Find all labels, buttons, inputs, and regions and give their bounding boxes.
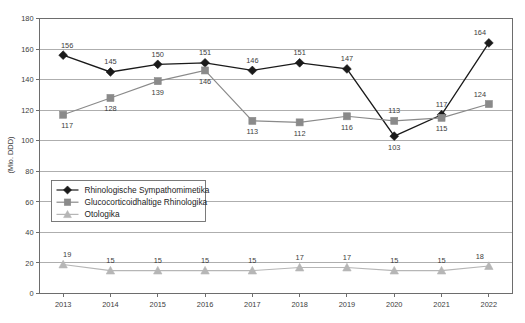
data-series [59, 39, 494, 274]
y-tick-label: 120 [21, 106, 33, 115]
data-point-value: 17 [343, 253, 351, 262]
y-tick-label: 0 [29, 289, 33, 298]
square-marker [438, 114, 445, 121]
data-point-value: 146 [199, 77, 211, 86]
data-point-value: 164 [474, 28, 486, 37]
data-point-value: 15 [437, 256, 445, 265]
data-point-value: 113 [388, 106, 400, 115]
x-tick-label: 2021 [433, 300, 449, 309]
square-marker [107, 94, 114, 101]
y-tick-label: 20 [25, 259, 33, 268]
data-point-value: 103 [388, 143, 400, 152]
data-point-value: 115 [436, 124, 448, 133]
series-line [63, 70, 489, 122]
y-axis-title-text: (Mio. DDD) [6, 137, 15, 174]
data-point-value: 150 [152, 50, 164, 59]
x-tick-label: 2015 [150, 300, 166, 309]
x-axis-ticks: 2013201420152016201720182019202020212022 [55, 294, 497, 309]
data-point-labels: 1561451501511461511471031171641171281391… [61, 28, 486, 265]
data-point-value: 156 [61, 41, 73, 50]
data-point-value: 19 [63, 250, 71, 259]
series-1 [59, 39, 494, 141]
y-tick-label: 180 [21, 14, 33, 23]
y-tick-label: 80 [25, 167, 33, 176]
triangle-marker [59, 260, 67, 268]
y-tick-label: 160 [21, 45, 33, 54]
diamond-marker [106, 68, 115, 77]
data-point-value: 15 [201, 256, 209, 265]
data-point-value: 112 [294, 129, 306, 138]
data-point-value: 117 [436, 100, 448, 109]
x-tick-label: 2019 [339, 300, 355, 309]
data-point-value: 117 [61, 121, 73, 130]
legend-label: Otologika [85, 209, 120, 219]
x-tick-label: 2016 [197, 300, 213, 309]
data-point-value: 15 [106, 256, 114, 265]
square-marker [202, 67, 209, 74]
series-2 [60, 67, 493, 126]
x-tick-label: 2017 [244, 300, 260, 309]
data-point-value: 15 [248, 256, 256, 265]
data-point-value: 113 [246, 127, 258, 136]
x-tick-label: 2013 [55, 300, 71, 309]
chart-canvas: 020406080100120140160180 201320142015201… [0, 0, 525, 323]
legend-label: Glucocorticoidhaltige Rhinologika [85, 197, 208, 207]
series-line [63, 264, 489, 270]
y-tick-label: 140 [21, 75, 33, 84]
data-point-value: 151 [293, 48, 305, 57]
diamond-marker [295, 58, 304, 67]
y-tick-label: 60 [25, 198, 33, 207]
diamond-marker [153, 60, 162, 69]
data-point-value: 147 [341, 54, 353, 63]
x-tick-label: 2018 [291, 300, 307, 309]
square-marker [343, 113, 350, 120]
line-chart: 020406080100120140160180 201320142015201… [0, 0, 525, 323]
x-tick-label: 2020 [386, 300, 402, 309]
data-point-value: 15 [154, 256, 162, 265]
square-marker [64, 199, 70, 205]
diamond-marker [484, 39, 493, 48]
square-marker [296, 119, 303, 126]
diamond-marker [248, 66, 257, 75]
data-point-value: 128 [104, 104, 116, 113]
square-marker [60, 111, 67, 118]
data-point-value: 18 [476, 252, 484, 261]
series-3 [59, 260, 493, 274]
diamond-marker [343, 65, 352, 74]
y-tick-label: 100 [21, 136, 33, 145]
diamond-marker [59, 51, 68, 60]
data-point-value: 116 [341, 123, 353, 132]
data-point-value: 151 [199, 48, 211, 57]
square-marker [485, 101, 492, 108]
y-tick-label: 40 [25, 228, 33, 237]
y-axis-ticks: 020406080100120140160180 [21, 14, 39, 298]
x-tick-label: 2022 [481, 300, 497, 309]
x-tick-label: 2014 [102, 300, 118, 309]
data-point-value: 17 [296, 253, 304, 262]
legend-label: Rhinologische Sympathomimetika [85, 185, 210, 195]
y-axis-title: (Mio. DDD) [6, 137, 15, 174]
diamond-marker [390, 132, 399, 141]
data-point-value: 15 [390, 256, 398, 265]
square-marker [154, 78, 161, 85]
gridlines [40, 19, 513, 263]
data-point-value: 124 [474, 90, 486, 99]
diamond-marker [201, 58, 210, 67]
square-marker [249, 117, 256, 124]
data-point-value: 146 [246, 56, 258, 65]
data-point-value: 139 [152, 88, 164, 97]
square-marker [391, 117, 398, 124]
chart-legend: Rhinologische SympathomimetikaGlucocorti… [52, 181, 210, 222]
data-point-value: 145 [104, 57, 116, 66]
